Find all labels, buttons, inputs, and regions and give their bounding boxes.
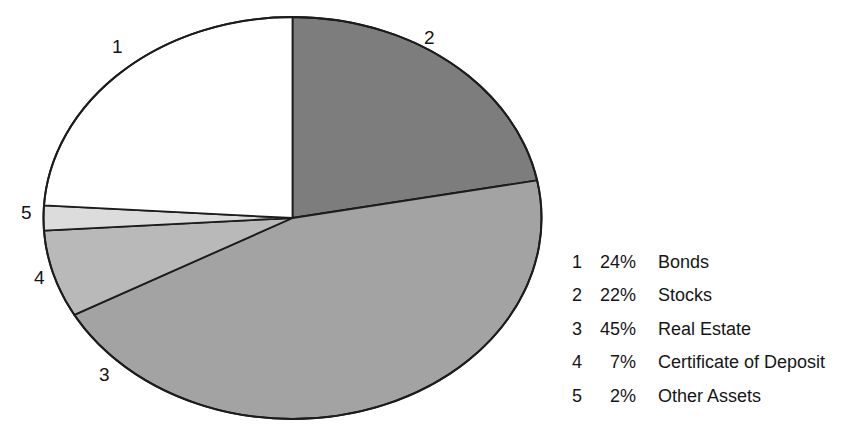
legend-item-label: Other Assets (636, 386, 846, 407)
legend-item-number: 1 (566, 252, 582, 273)
legend-row: 52%Other Assets (566, 386, 846, 419)
legend-item-number: 2 (566, 285, 582, 306)
legend-item-number: 3 (566, 319, 582, 340)
pie-chart-figure: 1 2 3 4 5 124%Bonds222%Stocks345%Real Es… (0, 0, 858, 444)
legend-row: 222%Stocks (566, 285, 846, 318)
pie-callout-4: 4 (34, 268, 45, 287)
pie-slice-1 (44, 17, 293, 218)
pie-callout-2: 2 (424, 28, 435, 47)
pie-callout-3: 3 (99, 365, 110, 384)
legend-item-percent: 22% (582, 285, 636, 306)
legend-item-number: 4 (566, 352, 582, 373)
legend-item-percent: 24% (582, 252, 636, 273)
legend-item-percent: 7% (582, 352, 636, 373)
legend-item-label: Stocks (636, 285, 846, 306)
legend-row: 47%Certificate of Deposit (566, 352, 846, 385)
legend-row: 345%Real Estate (566, 319, 846, 352)
legend-item-number: 5 (566, 386, 582, 407)
legend-item-label: Bonds (636, 252, 846, 273)
legend-item-label: Certificate of Deposit (636, 352, 846, 373)
chart-legend: 124%Bonds222%Stocks345%Real Estate47%Cer… (566, 252, 846, 419)
legend-item-percent: 45% (582, 319, 636, 340)
pie-callout-5: 5 (21, 203, 32, 222)
legend-row: 124%Bonds (566, 252, 846, 285)
legend-item-percent: 2% (582, 386, 636, 407)
pie-callout-1: 1 (112, 37, 123, 56)
legend-item-label: Real Estate (636, 319, 846, 340)
